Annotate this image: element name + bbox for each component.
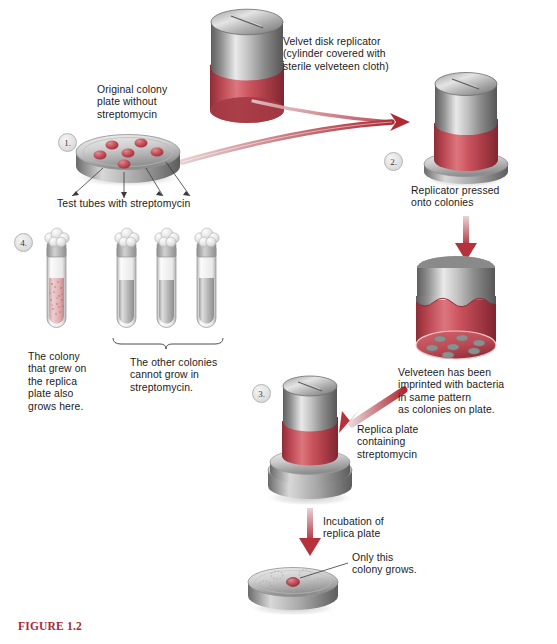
arrow-down-press [455, 216, 477, 261]
replicator-pressed-illustration [422, 73, 510, 189]
original-colony-plate [72, 135, 184, 188]
grown-colony [287, 578, 300, 587]
label-replicator-pressed: Replicator pressed onto colonies [411, 185, 499, 210]
step-number-1: 1. [58, 133, 77, 152]
brace-other-colonies [113, 338, 223, 349]
arrow-incubation [299, 508, 321, 556]
replica-plate-assembly [264, 376, 356, 506]
label-replica-plate: Replica plate containing streptomycin [357, 424, 418, 461]
label-only-colony: Only this colony grows. [352, 552, 417, 577]
label-original-plate: Original colony plate without streptomyc… [97, 84, 167, 121]
test-tube-clear-3 [195, 228, 219, 328]
label-incubation: Incubation of replica plate [323, 516, 384, 541]
label-velvet-replicator: Velvet disk replicator (cylinder covered… [283, 36, 389, 73]
velveteen-imprint-illustration [416, 256, 496, 359]
step-number-4: 4. [14, 233, 33, 252]
figure-artwork [0, 0, 557, 644]
step-number-2: 2. [384, 152, 403, 171]
step-number-3: 3. [252, 384, 271, 403]
test-tube-clear-1 [115, 228, 139, 328]
test-tube-clear-2 [155, 228, 179, 328]
replica-plating-figure: Velvet disk replicator (cylinder covered… [0, 0, 557, 644]
label-colony-grew: The colony that grew on the replica plat… [28, 351, 86, 413]
test-tube-resistant [45, 228, 69, 328]
figure-caption: FIGURE 1.2 [18, 620, 82, 632]
label-other-colonies: The other colonies cannot grow in strept… [130, 357, 217, 394]
final-replica-plate [247, 568, 339, 617]
label-velveteen-imprinted: Velveteen has been imprinted with bacter… [398, 367, 504, 417]
label-test-tubes: Test tubes with streptomycin [57, 198, 190, 210]
